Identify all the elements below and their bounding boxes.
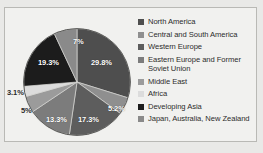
- legend-item[interactable]: North America: [138, 17, 258, 26]
- legend-item-label: Eastern Europe and FormerSoviet Union: [148, 55, 241, 74]
- pie-label-central-south-america: 5.2%: [108, 104, 125, 113]
- legend-item[interactable]: Africa: [138, 89, 258, 98]
- legend-item-label: Africa: [148, 89, 167, 98]
- legend-swatch-western-europe: [138, 44, 144, 50]
- legend-swatch-middle-east: [138, 79, 144, 85]
- pie-label-middle-east: 5%: [21, 106, 32, 115]
- legend-item[interactable]: Developing Asia: [138, 102, 258, 111]
- legend-swatch-africa: [138, 91, 144, 97]
- legend-swatch-eastern-europe: [138, 57, 144, 63]
- legend-swatch-north-america: [138, 19, 144, 25]
- legend-item-label: Central and South America: [148, 30, 238, 39]
- pie-label-north-america: 29.8%: [91, 58, 112, 67]
- pie-plot-area: 29.8% 5.2% 17.3% 13.3% 5% 3.1% 19.3% 7%: [11, 14, 141, 139]
- legend-item[interactable]: Middle East: [138, 77, 258, 86]
- legend-item[interactable]: Japan, Australia, New Zealand: [138, 114, 258, 123]
- legend-item-label: Middle East: [148, 77, 187, 86]
- legend-item-label: North America: [148, 17, 195, 26]
- pie-label-japan-australia-nz: 7%: [73, 37, 84, 46]
- legend-item[interactable]: Central and South America: [138, 30, 258, 39]
- legend-item-label: Japan, Australia, New Zealand: [148, 114, 250, 123]
- pie-chart-figure: · · · · 29.8% 5.2% 17.3% 13.3% 5% 3.1% 1…: [0, 0, 263, 153]
- legend-item[interactable]: Eastern Europe and FormerSoviet Union: [138, 55, 258, 74]
- legend: North AmericaCentral and South AmericaWe…: [138, 17, 258, 127]
- legend-item-label: Developing Asia: [148, 102, 202, 111]
- legend-item-label: Western Europe: [148, 42, 202, 51]
- pie-label-western-europe: 17.3%: [78, 115, 99, 124]
- pie-label-eastern-europe: 13.3%: [46, 115, 67, 124]
- legend-swatch-developing-asia: [138, 104, 144, 110]
- legend-swatch-central-south-america: [138, 32, 144, 38]
- legend-swatch-japan-australia-nz: [138, 116, 144, 122]
- pie-label-africa: 3.1%: [7, 88, 24, 97]
- pie-label-developing-asia: 19.3%: [38, 58, 59, 67]
- legend-item[interactable]: Western Europe: [138, 42, 258, 51]
- cut-off-title-remnant: · · · ·: [0, 0, 263, 3]
- chart-border-box: 29.8% 5.2% 17.3% 13.3% 5% 3.1% 19.3% 7% …: [4, 7, 257, 142]
